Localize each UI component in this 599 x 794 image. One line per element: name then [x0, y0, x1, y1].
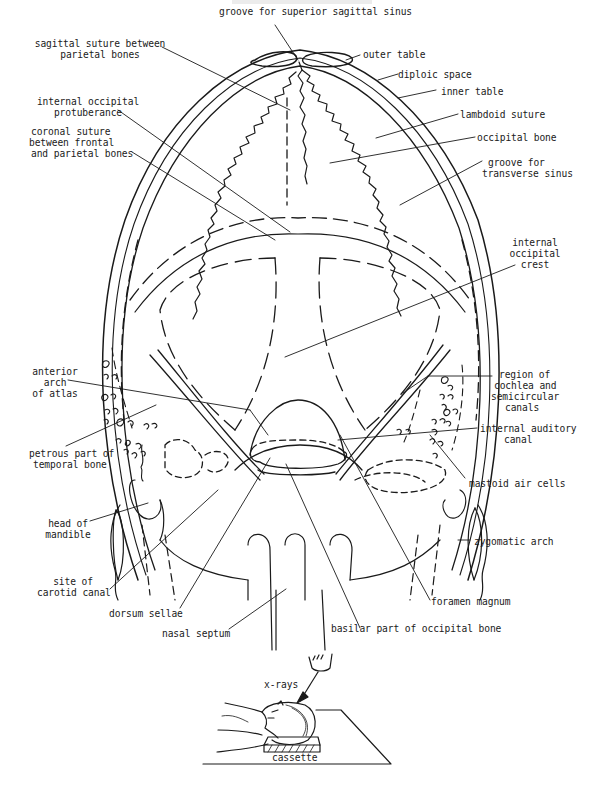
- foramen-magnum: [235, 400, 362, 470]
- label-foramen-magnum: foramen magnum: [431, 596, 510, 607]
- label-internal-auditory-canal-line1: internal auditory: [480, 423, 577, 434]
- transverse-sinus-groove: [130, 218, 470, 312]
- xray-setup-illustration: [203, 654, 391, 764]
- label-outer-table: outer table: [363, 49, 425, 60]
- label-groove-superior-sagittal-sinus: groove for superior sagittal sinus: [219, 6, 412, 17]
- label-inner-table: inner table: [441, 86, 503, 97]
- label-nasal-septum: nasal septum: [162, 628, 230, 639]
- label-carotid-canal-line2: carotid canal: [37, 587, 109, 598]
- xray-tube: [309, 654, 332, 671]
- label-internal-occipital-crest-line1: internal: [505, 237, 565, 248]
- label-anterior-arch-atlas-line3: of atlas: [28, 388, 82, 399]
- petrous-blobs-dashed: [165, 440, 446, 493]
- label-head-of-mandible-line1: head of: [44, 518, 92, 529]
- label-coronal-suture-line2: between frontal: [29, 137, 114, 148]
- lambdoid-suture: [193, 70, 401, 319]
- label-cochlea-region-line4: canals: [505, 402, 539, 413]
- sagittal-suture: [287, 62, 307, 205]
- petrous-ridges: [150, 345, 450, 480]
- label-x-rays: x-rays: [264, 679, 298, 690]
- label-cochlea-region-line3: semicircular: [491, 391, 559, 402]
- label-coronal-suture-line1: coronal suture: [31, 126, 110, 137]
- label-internal-occipital-protuberance-line2: protuberance: [36, 107, 140, 118]
- label-groove-transverse-sinus-line1: groove for: [488, 157, 545, 168]
- label-coronal-suture-line3: and parietal bones: [31, 148, 133, 159]
- label-internal-occipital-crest-line3: crest: [505, 259, 565, 270]
- label-petrous-part-line2: temporal bone: [33, 459, 107, 470]
- label-internal-auditory-canal-line2: canal: [504, 434, 532, 445]
- label-petrous-part-line1: petrous part of: [29, 448, 114, 459]
- label-cochlea-region-line2: cochlea and: [494, 380, 556, 391]
- label-basilar-part-occipital-bone: basilar part of occipital bone: [331, 623, 501, 634]
- label-diploic-space: diploic space: [398, 69, 472, 80]
- mastoid-air-cells-right: [397, 365, 463, 458]
- label-lambdoid-suture: lambdoid suture: [460, 109, 545, 120]
- label-anterior-arch-atlas-line2: arch: [28, 377, 82, 388]
- skull-vault-outline: [103, 50, 499, 580]
- label-occipital-bone: occipital bone: [477, 132, 556, 143]
- label-sagittal-suture-line1: sagittal suture between: [34, 38, 166, 49]
- label-zygomatic-arch: zygomatic arch: [474, 536, 553, 547]
- mastoid-air-cells-left: [102, 348, 157, 481]
- label-carotid-canal-line1: site of: [37, 576, 109, 587]
- label-groove-transverse-sinus-line2: transverse sinus: [482, 168, 573, 179]
- label-sagittal-suture-line2: parietal bones: [34, 49, 166, 60]
- mandible-and-zygoma: [111, 480, 487, 600]
- label-head-of-mandible-line2: mandible: [44, 529, 92, 540]
- label-dorsum-sellae: dorsum sellae: [109, 608, 183, 619]
- label-internal-occipital-crest-line2: occipital: [505, 248, 565, 259]
- skull-radiograph-diagram: groove for superior sagittal sinus sagit…: [0, 0, 599, 794]
- label-cassette: cassette: [272, 752, 317, 763]
- label-internal-occipital-protuberance-line1: internal occipital: [36, 96, 140, 107]
- label-mastoid-air-cells: mastoid air cells: [469, 478, 566, 489]
- label-anterior-arch-atlas-line1: anterior: [28, 366, 82, 377]
- label-cochlea-region-line1: region of: [499, 369, 550, 380]
